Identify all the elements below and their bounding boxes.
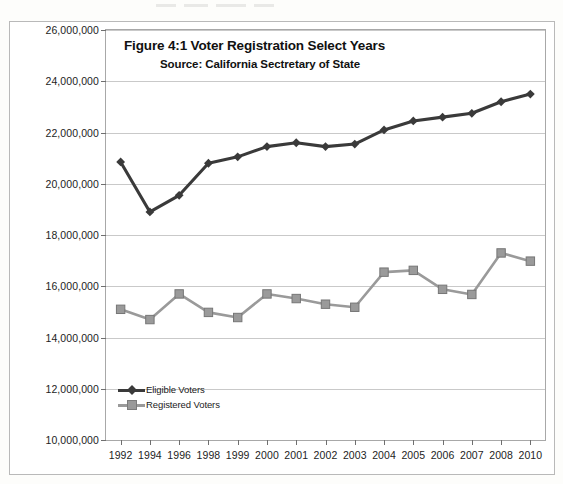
chart-frame: Figure 4:1 Voter Registration Select Yea…	[9, 21, 555, 475]
x-axis-tick	[326, 440, 327, 445]
x-axis-tick	[150, 440, 151, 445]
series-eligible-voters	[116, 90, 535, 217]
y-axis-tick-label: 26,000,000	[45, 24, 99, 36]
chart-legend: Eligible Voters Registered Voters	[118, 382, 278, 412]
x-axis-tick	[121, 440, 122, 445]
data-point	[467, 109, 476, 118]
data-point	[204, 308, 212, 316]
legend-item-registered-voters: Registered Voters	[118, 397, 278, 412]
x-axis-tick	[530, 440, 531, 445]
y-axis-tick-label: 12,000,000	[45, 383, 99, 395]
data-point	[234, 313, 242, 321]
data-point	[380, 268, 388, 276]
data-point	[468, 290, 476, 298]
legend-item-eligible-voters: Eligible Voters	[118, 382, 278, 397]
y-axis-tick-label: 20,000,000	[45, 178, 99, 190]
legend-swatch-registered-voters	[118, 399, 145, 410]
data-point	[116, 305, 124, 313]
x-axis-tick-label: 1992	[109, 449, 133, 461]
x-axis-tick	[501, 440, 502, 445]
y-axis-tick-label: 10,000,000	[45, 434, 99, 446]
data-point	[526, 257, 534, 265]
x-axis-tick	[238, 440, 239, 445]
series-layer	[106, 30, 545, 440]
x-axis-tick-label: 2008	[489, 449, 513, 461]
y-axis-tick-label: 24,000,000	[45, 75, 99, 87]
x-axis-tick-label: 1996	[167, 449, 191, 461]
y-axis-tick-label: 18,000,000	[45, 229, 99, 241]
x-axis-tick-label: 2000	[255, 449, 279, 461]
legend-swatch-eligible-voters	[118, 384, 145, 395]
x-axis-tick	[179, 440, 180, 445]
data-point	[321, 300, 329, 308]
series-line	[121, 253, 531, 320]
x-axis-tick-label: 2005	[401, 449, 425, 461]
x-axis-tick	[384, 440, 385, 445]
x-axis-tick	[267, 440, 268, 445]
legend-label-eligible-voters: Eligible Voters	[146, 384, 205, 395]
data-point	[438, 113, 447, 122]
x-axis-tick	[208, 440, 209, 445]
x-axis-tick-label: 1998	[197, 449, 221, 461]
scan-bleed-artifact	[150, 0, 370, 12]
data-point	[263, 290, 271, 298]
data-point	[438, 285, 446, 293]
legend-label-registered-voters: Registered Voters	[146, 399, 220, 410]
data-point	[292, 294, 300, 302]
series-registered-voters	[116, 249, 534, 324]
data-point	[263, 142, 272, 151]
x-axis-tick-label: 2001	[284, 449, 308, 461]
x-axis-tick-label: 1999	[226, 449, 250, 461]
x-axis-tick-label: 2007	[460, 449, 484, 461]
data-point	[497, 97, 506, 106]
y-axis-tick-label: 14,000,000	[45, 332, 99, 344]
y-axis-tick-label: 22,000,000	[45, 127, 99, 139]
data-point	[409, 266, 417, 274]
x-axis-tick-label: 2004	[372, 449, 396, 461]
y-axis-tick-label: 16,000,000	[45, 280, 99, 292]
data-point	[146, 315, 154, 323]
data-point	[292, 138, 301, 147]
plot-area: Figure 4:1 Voter Registration Select Yea…	[105, 29, 546, 441]
data-point	[351, 303, 359, 311]
data-point	[175, 290, 183, 298]
x-axis-tick	[472, 440, 473, 445]
data-point	[526, 90, 535, 99]
x-axis-tick-label: 1994	[138, 449, 162, 461]
x-axis-tick	[296, 440, 297, 445]
x-axis-tick	[413, 440, 414, 445]
x-axis-tick-label: 2003	[343, 449, 367, 461]
data-point	[409, 117, 418, 126]
data-point	[233, 152, 242, 161]
x-axis-tick	[355, 440, 356, 445]
x-axis-tick-label: 2010	[518, 449, 542, 461]
x-axis-tick	[443, 440, 444, 445]
x-axis-tick-label: 2006	[431, 449, 455, 461]
data-point	[321, 142, 330, 151]
y-axis-tick	[101, 440, 106, 441]
x-axis-tick-label: 2002	[314, 449, 338, 461]
data-point	[497, 249, 505, 257]
